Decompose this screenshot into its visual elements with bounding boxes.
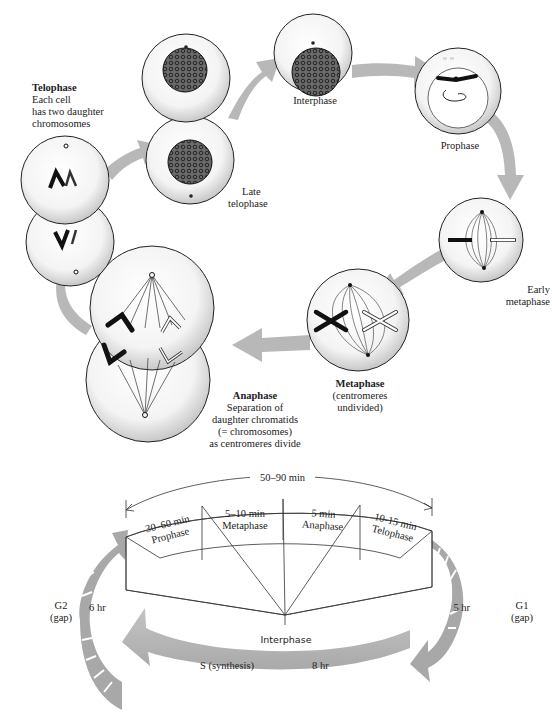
metaphase-cell — [307, 269, 409, 371]
early-metaphase-cell — [439, 198, 523, 282]
label-late-telophase: Late telophase — [228, 186, 288, 210]
label-anaphase-note3: (= chromosomes) — [195, 426, 315, 438]
label-telophase-note3: chromosomes — [32, 118, 132, 130]
label-g1-title: G1 — [502, 600, 542, 612]
label-metaphase-title: Metaphase — [315, 378, 405, 390]
label-interphase-bottom: Interphase — [246, 634, 326, 646]
label-g1: G1 (gap) — [502, 600, 542, 624]
label-g2-duration: 6 hr — [89, 602, 129, 614]
label-anaphase-note4: as centromeres divide — [195, 438, 315, 450]
label-interphase: Interphase — [280, 95, 350, 107]
label-telophase-note1: Each cell — [32, 94, 132, 106]
label-metaphase-time: 5–10 min — [210, 508, 280, 520]
label-g2-title: G2 — [46, 600, 76, 612]
label-s-duration: 8 hr — [312, 660, 352, 672]
label-mitosis-total: 50–90 min — [250, 472, 315, 484]
label-s-phase: S (synthesis) — [200, 660, 300, 672]
label-anaphase-title: Anaphase — [195, 390, 315, 402]
label-telophase: Telophase Each cell has two daughter chr… — [32, 82, 132, 130]
label-anaphase-note2: daughter chromatids — [195, 414, 315, 426]
label-telophase-title: Telophase — [32, 82, 132, 94]
label-early-metaphase-line2: metaphase — [490, 296, 550, 308]
label-metaphase-note2: undivided) — [315, 402, 405, 414]
label-late-telophase-line1: Late — [228, 186, 288, 198]
label-g2-sub: (gap) — [46, 612, 76, 624]
label-prophase: Prophase — [430, 140, 490, 152]
late-telophase-cell — [142, 34, 234, 204]
label-anaphase-note1: Separation of — [195, 402, 315, 414]
label-g1-sub: (gap) — [502, 612, 542, 624]
label-g1-duration: 5 hr — [430, 602, 470, 614]
label-metaphase-duration: 5–10 min Metaphase — [210, 508, 280, 532]
g2-arrow — [79, 530, 128, 710]
interphase-cell — [274, 14, 352, 96]
label-metaphase-note1: (centromeres — [315, 390, 405, 402]
label-telophase-note2: has two daughter — [32, 106, 132, 118]
label-g2: G2 (gap) — [46, 600, 76, 624]
label-anaphase: Anaphase Separation of daughter chromati… — [195, 390, 315, 450]
svg-text:☼ ☼: ☼ ☼ — [442, 55, 455, 61]
label-metaphase-name: Metaphase — [210, 520, 280, 532]
prophase-cell: ☼ ☼ — [415, 48, 501, 134]
label-anaphase-duration: 5 min Anaphase — [287, 506, 359, 535]
telophase-cell — [21, 136, 114, 286]
label-metaphase: Metaphase (centromeres undivided) — [315, 378, 405, 414]
label-early-metaphase-line1: Early — [490, 284, 550, 296]
label-early-metaphase: Early metaphase — [490, 284, 550, 308]
label-late-telophase-line2: telophase — [228, 198, 288, 210]
